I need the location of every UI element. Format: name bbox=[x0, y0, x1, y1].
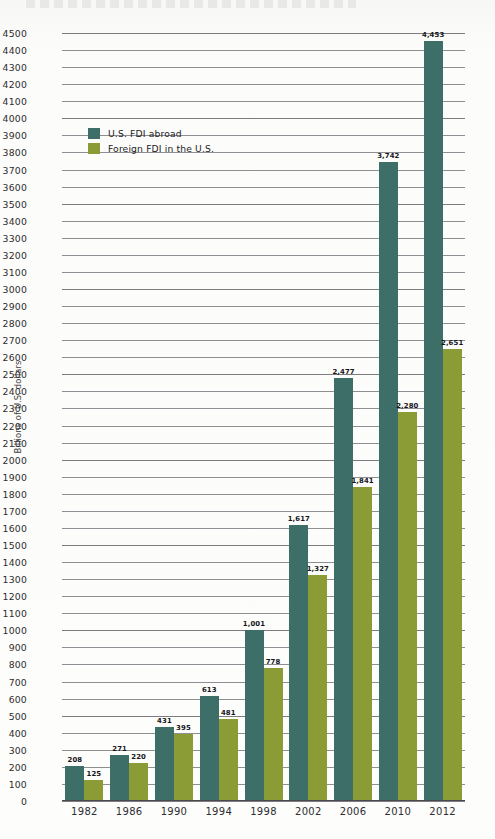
y-axis-tick-label: 1500 bbox=[0, 540, 27, 551]
y-axis-tick-label: 3900 bbox=[0, 130, 27, 141]
bar-value-label: 271 bbox=[112, 745, 127, 753]
bar-group: 1,6171,327 bbox=[286, 33, 331, 801]
chart-legend: U.S. FDI abroad Foreign FDI in the U.S. bbox=[88, 128, 214, 154]
y-axis-tick-label: 3300 bbox=[0, 232, 27, 243]
x-axis-tick-label: 1998 bbox=[241, 806, 286, 817]
y-axis-tick-label: 4100 bbox=[0, 96, 27, 107]
bar-value-label: 220 bbox=[131, 753, 146, 761]
bar-fill bbox=[245, 630, 264, 801]
bar-fill bbox=[264, 668, 283, 801]
bar[interactable]: 220 bbox=[129, 763, 148, 801]
bar[interactable]: 2,651 bbox=[443, 349, 462, 801]
bar[interactable]: 431 bbox=[155, 727, 174, 801]
y-axis-tick-label: 3000 bbox=[0, 284, 27, 295]
y-axis-tick-label: 3100 bbox=[0, 266, 27, 277]
bar-fill bbox=[379, 162, 398, 801]
bar-fill bbox=[308, 575, 327, 801]
bar-value-label: 1,841 bbox=[351, 477, 373, 485]
bar-value-label: 2,651 bbox=[441, 339, 463, 347]
bar-value-label: 125 bbox=[87, 770, 102, 778]
y-axis-tick-label: 600 bbox=[0, 693, 27, 704]
legend-item-foreign-fdi-in-us[interactable]: Foreign FDI in the U.S. bbox=[88, 143, 214, 154]
y-axis-tick-label: 300 bbox=[0, 744, 27, 755]
x-axis-tick-label: 1982 bbox=[62, 806, 107, 817]
y-axis-tick-label: 1000 bbox=[0, 625, 27, 636]
bar-value-label: 1,327 bbox=[307, 565, 329, 573]
y-axis-tick-label: 2600 bbox=[0, 352, 27, 363]
y-axis-tick-label: 2100 bbox=[0, 437, 27, 448]
bar[interactable]: 1,841 bbox=[353, 487, 372, 801]
y-axis-tick-label: 2200 bbox=[0, 420, 27, 431]
y-axis-tick-label: 3800 bbox=[0, 147, 27, 158]
bar-value-label: 208 bbox=[68, 756, 83, 764]
bar-value-label: 613 bbox=[202, 686, 217, 694]
bar-fill bbox=[65, 766, 84, 801]
y-axis-tick-label: 200 bbox=[0, 761, 27, 772]
bar[interactable]: 2,280 bbox=[398, 412, 417, 801]
y-axis-tick-label: 1200 bbox=[0, 591, 27, 602]
x-axis-tick-label: 2006 bbox=[331, 806, 376, 817]
y-axis-tick-label: 500 bbox=[0, 710, 27, 721]
legend-swatch-teal-icon bbox=[88, 128, 100, 139]
bar[interactable]: 395 bbox=[174, 734, 193, 801]
y-axis-tick-label: 4000 bbox=[0, 113, 27, 124]
x-axis-tick-label: 1986 bbox=[107, 806, 152, 817]
bar[interactable]: 125 bbox=[84, 780, 103, 801]
bar-fill bbox=[443, 349, 462, 801]
bar-value-label: 2,477 bbox=[332, 368, 354, 376]
y-axis-tick-label: 3600 bbox=[0, 181, 27, 192]
bar-group: 3,7422,280 bbox=[375, 33, 420, 801]
y-axis-tick-label: 700 bbox=[0, 676, 27, 687]
x-axis-line bbox=[62, 800, 465, 801]
bar-fill bbox=[110, 755, 129, 801]
y-axis-tick-label: 0 bbox=[0, 796, 27, 807]
x-axis-ticks: 198219861990199419982002200620102012 bbox=[62, 806, 465, 817]
bar[interactable]: 2,477 bbox=[334, 378, 353, 801]
bar-group: 4,4532,651 bbox=[420, 33, 465, 801]
bar-value-label: 778 bbox=[266, 658, 281, 666]
bar[interactable]: 208 bbox=[65, 766, 84, 801]
y-axis-tick-label: 1800 bbox=[0, 488, 27, 499]
legend-swatch-olive-icon bbox=[88, 143, 100, 154]
bar[interactable]: 778 bbox=[264, 668, 283, 801]
bar[interactable]: 4,453 bbox=[424, 41, 443, 801]
y-axis-tick-label: 2300 bbox=[0, 403, 27, 414]
y-axis-tick-label: 400 bbox=[0, 727, 27, 738]
bar-value-label: 4,453 bbox=[422, 31, 444, 39]
y-axis-tick-label: 2900 bbox=[0, 301, 27, 312]
bar[interactable]: 1,327 bbox=[308, 575, 327, 801]
bar-value-label: 1,617 bbox=[288, 515, 310, 523]
y-axis-tick-label: 2000 bbox=[0, 454, 27, 465]
bar-fill bbox=[219, 719, 238, 801]
bar-group: 2,4771,841 bbox=[331, 33, 376, 801]
bar-value-label: 2,280 bbox=[396, 402, 418, 410]
bar-value-label: 431 bbox=[157, 717, 172, 725]
y-axis-tick-label: 3500 bbox=[0, 198, 27, 209]
bar-fill bbox=[174, 734, 193, 801]
chart-figure: Billions of U.S. dollars 208125271220431… bbox=[0, 0, 495, 839]
bar-fill bbox=[424, 41, 443, 801]
bar[interactable]: 1,617 bbox=[289, 525, 308, 801]
x-axis-tick-label: 1994 bbox=[196, 806, 241, 817]
x-axis-tick-label: 2010 bbox=[375, 806, 420, 817]
y-axis-tick-label: 4300 bbox=[0, 62, 27, 73]
y-axis-tick-label: 2700 bbox=[0, 335, 27, 346]
bar-fill bbox=[353, 487, 372, 801]
legend-label: Foreign FDI in the U.S. bbox=[108, 143, 214, 154]
x-axis-tick-label: 1990 bbox=[152, 806, 197, 817]
y-axis-tick-label: 800 bbox=[0, 659, 27, 670]
bar[interactable]: 3,742 bbox=[379, 162, 398, 801]
bar[interactable]: 1,001 bbox=[245, 630, 264, 801]
y-axis-tick-label: 3400 bbox=[0, 215, 27, 226]
bar[interactable]: 271 bbox=[110, 755, 129, 801]
bar[interactable]: 613 bbox=[200, 696, 219, 801]
bar-fill bbox=[398, 412, 417, 801]
y-axis-tick-label: 1400 bbox=[0, 557, 27, 568]
bar[interactable]: 481 bbox=[219, 719, 238, 801]
y-axis-tick-label: 2500 bbox=[0, 369, 27, 380]
y-axis-tick-label: 100 bbox=[0, 778, 27, 789]
legend-item-us-fdi-abroad[interactable]: U.S. FDI abroad bbox=[88, 128, 214, 139]
bar-value-label: 3,742 bbox=[377, 152, 399, 160]
bar-value-label: 395 bbox=[176, 724, 191, 732]
bar-fill bbox=[200, 696, 219, 801]
